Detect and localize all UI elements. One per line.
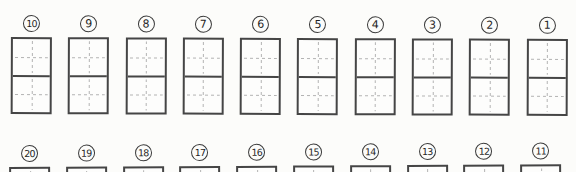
practice-box	[183, 38, 224, 115]
center-guide-vertical-dashed	[484, 169, 485, 172]
circled-number: 3	[424, 16, 441, 33]
practice-cell-top	[471, 41, 508, 77]
circled-number: 17	[191, 144, 208, 161]
practice-column-14: 14	[350, 143, 391, 172]
circled-number: 19	[78, 145, 95, 162]
circled-number: 10	[23, 15, 40, 32]
circled-number: 5	[309, 16, 326, 33]
center-guide-vertical-dashed	[203, 79, 204, 111]
circled-number: 1	[539, 17, 556, 34]
practice-box	[469, 39, 510, 116]
center-guide-vertical-dashed	[257, 170, 258, 172]
practice-cell-top	[125, 168, 162, 172]
practice-box	[526, 39, 567, 116]
center-guide-vertical-dashed	[30, 171, 31, 172]
center-guide-vertical-dashed	[432, 42, 433, 74]
practice-box	[11, 37, 52, 114]
center-guide-vertical-dashed	[200, 170, 201, 172]
practice-column-11: 11	[520, 142, 561, 172]
center-guide-vertical-dashed	[427, 169, 428, 172]
circled-number: 7	[195, 16, 212, 33]
practice-cell-bottom	[414, 76, 451, 114]
practice-column-10: 10	[11, 15, 52, 114]
practice-cell-top	[409, 167, 446, 172]
worksheet-page: 10987654321 20191817161514131211	[0, 0, 576, 172]
practice-box	[123, 166, 164, 172]
practice-cell-bottom	[356, 76, 393, 114]
practice-column-4: 4	[354, 16, 395, 115]
practice-cell-top	[295, 167, 332, 172]
practice-cell-top	[13, 39, 50, 75]
circled-number: 15	[305, 143, 322, 160]
center-guide-vertical-dashed	[375, 80, 376, 112]
circled-number: 20	[21, 145, 38, 162]
practice-column-8: 8	[125, 15, 166, 114]
practice-cell-bottom	[185, 75, 222, 113]
practice-column-7: 7	[183, 16, 224, 115]
circled-number: 2	[481, 17, 498, 34]
practice-box	[412, 38, 453, 115]
center-guide-vertical-dashed	[375, 42, 376, 74]
practice-box	[125, 37, 166, 114]
practice-cell-bottom	[127, 75, 164, 113]
practice-column-12: 12	[463, 143, 504, 172]
practice-cell-bottom	[471, 76, 508, 114]
center-guide-vertical-dashed	[547, 43, 548, 75]
practice-cell-bottom	[242, 75, 279, 113]
practice-cell-top	[238, 168, 275, 172]
practice-box	[354, 38, 395, 115]
circled-number: 18	[135, 144, 152, 161]
practice-cell-top	[528, 41, 565, 77]
practice-box	[520, 164, 561, 172]
practice-box	[236, 166, 277, 172]
practice-cell-top	[11, 169, 48, 172]
center-guide-vertical-dashed	[432, 80, 433, 112]
center-guide-vertical-dashed	[31, 41, 32, 73]
practice-column-9: 9	[68, 15, 109, 114]
practice-cell-top	[352, 167, 389, 172]
practice-box	[66, 167, 107, 172]
circled-number: 8	[138, 15, 155, 32]
practice-box	[240, 38, 281, 115]
circled-number: 11	[532, 142, 549, 159]
center-guide-vertical-dashed	[86, 171, 87, 172]
practice-row-top: 10987654321	[11, 15, 568, 116]
practice-column-5: 5	[297, 16, 338, 115]
practice-cell-top	[465, 167, 502, 172]
practice-cell-bottom	[70, 75, 107, 113]
circled-number: 14	[362, 143, 379, 160]
center-guide-vertical-dashed	[146, 41, 147, 73]
center-guide-vertical-dashed	[31, 79, 32, 111]
practice-column-13: 13	[407, 143, 448, 172]
practice-column-20: 20	[9, 145, 50, 172]
practice-cell-top	[185, 40, 222, 76]
practice-cell-top	[299, 40, 336, 76]
practice-column-18: 18	[123, 144, 164, 172]
center-guide-vertical-dashed	[88, 79, 89, 111]
practice-box	[68, 37, 109, 114]
practice-column-16: 16	[236, 144, 277, 172]
practice-cell-bottom	[528, 76, 565, 114]
center-guide-vertical-dashed	[318, 42, 319, 74]
practice-column-19: 19	[66, 145, 107, 172]
practice-cell-top	[182, 168, 219, 172]
practice-cell-top	[70, 39, 107, 75]
center-guide-vertical-dashed	[260, 42, 261, 74]
circled-number: 12	[475, 143, 492, 160]
practice-cell-top	[127, 39, 164, 75]
practice-cell-top	[242, 40, 279, 76]
center-guide-vertical-dashed	[547, 80, 548, 112]
center-guide-vertical-dashed	[541, 168, 542, 172]
practice-box	[463, 165, 504, 172]
circled-number: 4	[367, 16, 384, 33]
practice-column-17: 17	[179, 144, 220, 172]
practice-column-3: 3	[412, 16, 453, 115]
practice-column-6: 6	[240, 16, 281, 115]
practice-row-bottom: 20191817161514131211	[9, 142, 562, 172]
practice-cell-bottom	[13, 75, 50, 113]
practice-cell-top	[522, 166, 559, 172]
center-guide-vertical-dashed	[490, 80, 491, 112]
practice-box	[179, 166, 220, 172]
center-guide-vertical-dashed	[314, 170, 315, 172]
practice-box	[350, 165, 391, 172]
